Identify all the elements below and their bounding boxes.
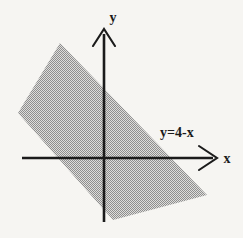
x-axis-label: x (224, 151, 231, 166)
line-equation-label: y=4-x (160, 125, 194, 140)
y-axis-label: y (110, 10, 117, 25)
coordinate-plane: y x y=4-x (0, 0, 243, 238)
math-figure: y x y=4-x (0, 0, 243, 238)
